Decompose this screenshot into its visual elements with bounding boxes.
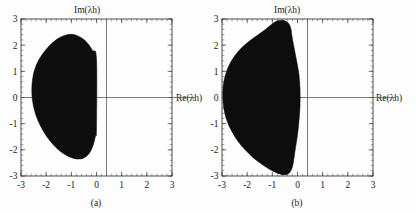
x-tick-label: -1 <box>67 180 75 190</box>
y-tick-label: -2 <box>211 145 219 155</box>
y-tick-label: -3 <box>10 171 18 181</box>
panel-a-stability-region <box>32 34 97 159</box>
x-tick-label: 0 <box>94 180 99 190</box>
x-tick-label: -2 <box>42 180 50 190</box>
y-tick-label: 0 <box>214 93 219 103</box>
x-tick-label: -3 <box>218 180 226 190</box>
x-tick-label: -2 <box>243 180 251 190</box>
panel-a-y-tick-labels: -3-2-10123 <box>10 14 18 181</box>
panel-b-ylabel-group: Im(λh) <box>274 5 300 16</box>
y-tick-label: -1 <box>211 119 219 129</box>
panel-b-stability-region <box>223 20 300 175</box>
x-tick-label: 3 <box>371 180 376 190</box>
y-tick-label: -2 <box>10 145 18 155</box>
panel-a-xlabel: Re(λh) <box>176 93 202 104</box>
x-tick-label: 2 <box>144 180 149 190</box>
panel-b-xlabel: Re(λh) <box>376 93 402 104</box>
y-tick-label: -1 <box>10 119 18 129</box>
x-tick-label: 2 <box>345 180 350 190</box>
y-tick-label: 2 <box>214 41 219 51</box>
panel-a: Im(λh) Re(λh) -3-2-10123 -3-2-10123 (a) <box>0 0 208 213</box>
panel-b-caption: (b) <box>291 198 302 209</box>
y-tick-label: 0 <box>13 93 18 103</box>
panel-b: Im(λh) Re(λh) -3-2-10123 -3-2-10123 (b) <box>208 0 416 213</box>
x-tick-label: 3 <box>170 180 175 190</box>
x-tick-label: 1 <box>119 180 124 190</box>
panel-b-xlabel-group: Re(λh) <box>376 93 402 104</box>
y-tick-label: 3 <box>13 14 18 24</box>
panel-b-x-tick-labels: -3-2-10123 <box>218 180 376 190</box>
y-tick-label: 1 <box>214 67 219 77</box>
panel-a-caption: (a) <box>91 198 102 209</box>
x-tick-label: -3 <box>17 180 25 190</box>
panel-a-xlabel-group: Re(λh) <box>176 93 202 104</box>
stability-region-figure: Im(λh) Re(λh) -3-2-10123 -3-2-10123 (a) … <box>0 0 416 213</box>
y-tick-label: 1 <box>13 67 18 77</box>
y-tick-label: 3 <box>214 14 219 24</box>
y-tick-label: 2 <box>13 41 18 51</box>
panel-b-ylabel: Im(λh) <box>274 5 300 16</box>
panel-a-plot: Im(λh) Re(λh) -3-2-10123 -3-2-10123 (a) <box>0 0 208 213</box>
panel-a-ylabel: Im(λh) <box>74 5 100 16</box>
panel-a-x-tick-labels: -3-2-10123 <box>17 180 175 190</box>
panel-b-plot: Im(λh) Re(λh) -3-2-10123 -3-2-10123 (b) <box>208 0 416 213</box>
panel-b-y-tick-labels: -3-2-10123 <box>211 14 219 181</box>
x-tick-label: 0 <box>295 180 300 190</box>
x-tick-label: -1 <box>268 180 276 190</box>
panel-a-ylabel-group: Im(λh) <box>74 5 100 16</box>
x-tick-label: 1 <box>320 180 325 190</box>
y-tick-label: -3 <box>211 171 219 181</box>
